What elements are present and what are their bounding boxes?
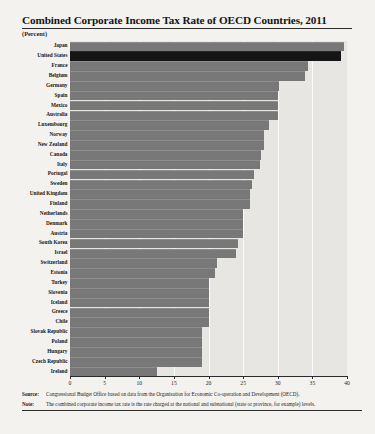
- category-label-germany: Germany: [46, 81, 67, 91]
- category-label-hungary: Hungary: [47, 347, 67, 357]
- category-label-denmark: Denmark: [46, 219, 67, 229]
- category-label-new-zealand: New Zealand: [38, 140, 68, 150]
- bar-denmark: [70, 219, 243, 229]
- bar-row: Chile: [70, 317, 347, 327]
- category-label-austria: Austria: [50, 229, 67, 239]
- note-label: Note:: [22, 401, 46, 407]
- bar-row: Slovenia: [70, 287, 347, 297]
- category-label-australia: Australia: [46, 110, 67, 120]
- bar-ireland: [70, 367, 157, 377]
- bar-row: Japan: [70, 41, 347, 51]
- x-tick-label-5: 5: [103, 380, 106, 386]
- x-tick-40: [347, 376, 348, 379]
- bar-row: Iceland: [70, 297, 347, 307]
- source-note: Source:Congressional Budget Office based…: [22, 391, 362, 397]
- bar-greece: [70, 308, 209, 318]
- x-tick-label-0: 0: [69, 380, 72, 386]
- footer-divider: [22, 410, 362, 411]
- category-label-ireland: Ireland: [51, 367, 68, 377]
- bar-estonia: [70, 268, 215, 278]
- category-label-estonia: Estonia: [50, 268, 67, 278]
- x-tick-10: [139, 376, 140, 379]
- category-label-spain: Spain: [55, 91, 68, 101]
- bar-row: Finland: [70, 199, 347, 209]
- bar-row: Germany: [70, 80, 347, 90]
- x-tick-label-40: 40: [344, 380, 350, 386]
- bar-row: Belgium: [70, 71, 347, 81]
- bar-austria: [70, 229, 243, 239]
- category-label-slovenia: Slovenia: [48, 288, 67, 298]
- x-tick-label-10: 10: [136, 380, 142, 386]
- note-note: Note:The combined corporate income tax r…: [22, 401, 362, 407]
- source-label: Source:: [22, 391, 46, 397]
- x-tick-35: [312, 376, 313, 379]
- category-label-switzerland: Switzerland: [40, 258, 67, 268]
- bar-slovenia: [70, 288, 209, 298]
- x-tick-label-15: 15: [171, 380, 177, 386]
- title-divider: [22, 28, 352, 29]
- bar-new-zealand: [70, 140, 264, 150]
- bar-row: Luxembourg: [70, 120, 347, 130]
- bar-row: Greece: [70, 307, 347, 317]
- bar-row: Ireland: [70, 366, 347, 376]
- bar-spain: [70, 91, 278, 101]
- bar-finland: [70, 199, 250, 209]
- x-tick-0: [70, 376, 71, 379]
- category-label-italy: Italy: [57, 160, 68, 170]
- category-label-united-states: United States: [37, 51, 67, 61]
- x-tick-25: [243, 376, 244, 379]
- bar-row: Netherlands: [70, 209, 347, 219]
- bar-france: [70, 61, 308, 71]
- bar-row: Hungary: [70, 346, 347, 356]
- category-label-turkey: Turkey: [51, 278, 67, 288]
- bar-row: Italy: [70, 159, 347, 169]
- bar-row: Mexico: [70, 100, 347, 110]
- bar-belgium: [70, 71, 305, 81]
- bar-row: Israel: [70, 248, 347, 258]
- bar-hungary: [70, 347, 202, 357]
- bar-row: United States: [70, 51, 347, 61]
- bar-row: Slovak Republic: [70, 327, 347, 337]
- category-label-czech-republic: Czech Republic: [32, 357, 67, 367]
- bar-row: Spain: [70, 90, 347, 100]
- bar-united-states: [70, 51, 341, 61]
- chart-page: Combined Corporate Income Tax Rate of OE…: [0, 0, 375, 434]
- category-label-france: France: [52, 61, 68, 71]
- x-tick-20: [209, 376, 210, 379]
- bar-united-kingdom: [70, 189, 250, 199]
- category-label-sweden: Sweden: [50, 179, 67, 189]
- category-label-luxembourg: Luxembourg: [38, 120, 67, 130]
- page-title: Combined Corporate Income Tax Rate of OE…: [22, 14, 352, 26]
- bar-row: Denmark: [70, 218, 347, 228]
- category-label-japan: Japan: [54, 41, 68, 51]
- bar-row: Turkey: [70, 277, 347, 287]
- x-tick-5: [105, 376, 106, 379]
- bar-norway: [70, 130, 264, 140]
- x-tick-label-25: 25: [240, 380, 246, 386]
- bar-chile: [70, 317, 209, 327]
- bar-italy: [70, 160, 260, 170]
- bar-row: Norway: [70, 130, 347, 140]
- bar-row: Estonia: [70, 268, 347, 278]
- bar-row: Czech Republic: [70, 356, 347, 366]
- category-label-chile: Chile: [55, 317, 67, 327]
- bar-poland: [70, 337, 202, 347]
- bar-netherlands: [70, 209, 243, 219]
- bar-row: Poland: [70, 337, 347, 347]
- x-tick-label-35: 35: [310, 380, 316, 386]
- category-label-poland: Poland: [52, 337, 68, 347]
- bar-row: Austria: [70, 228, 347, 238]
- bar-portugal: [70, 170, 254, 180]
- category-label-greece: Greece: [52, 307, 68, 317]
- bar-row: Switzerland: [70, 258, 347, 268]
- x-tick-15: [174, 376, 175, 379]
- category-label-mexico: Mexico: [51, 101, 67, 111]
- category-label-netherlands: Netherlands: [40, 209, 68, 219]
- bar-slovak-republic: [70, 327, 202, 337]
- category-label-iceland: Iceland: [51, 298, 68, 308]
- bar-mexico: [70, 101, 278, 111]
- bar-south-korea: [70, 239, 238, 249]
- bar-turkey: [70, 278, 209, 288]
- bar-row: United Kingdom: [70, 189, 347, 199]
- category-label-slovak-republic: Slovak Republic: [31, 327, 68, 337]
